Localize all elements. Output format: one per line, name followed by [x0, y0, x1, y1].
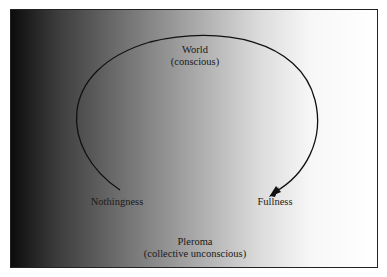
nothingness-label: Nothingness	[82, 196, 152, 208]
pleroma-subtext: (collective unconscious)	[130, 248, 260, 260]
fullness-label: Fullness	[250, 196, 300, 208]
pleroma-text: Pleroma	[130, 236, 260, 248]
world-text: World	[160, 44, 230, 56]
world-subtext: (conscious)	[160, 56, 230, 68]
world-label: World (conscious)	[160, 44, 230, 68]
pleroma-label: Pleroma (collective unconscious)	[130, 236, 260, 260]
